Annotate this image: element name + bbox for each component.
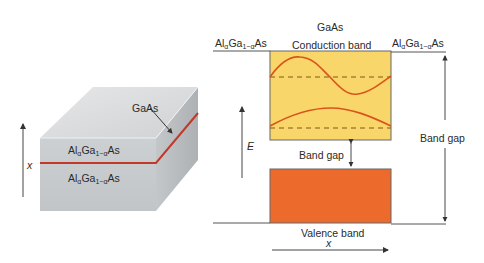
gaas-well-label: GaAs — [132, 103, 158, 114]
inner-band-gap-label: Band gap — [299, 150, 344, 161]
position-axis-label: x — [326, 238, 331, 249]
valence-band-well — [270, 169, 391, 223]
top-layer-label: AlαGa1−αAs — [68, 145, 120, 156]
left-material-label: AlαGa1−αAs — [215, 38, 267, 49]
conduction-band-label: Conduction band — [292, 40, 371, 51]
right-material-label: AlαGa1−αAs — [392, 38, 444, 49]
energy-axis-label: E — [247, 141, 254, 152]
bottom-layer-label: AlαGa1−αAs — [68, 173, 120, 184]
conduction-band-well — [270, 51, 391, 140]
outer-band-gap-label: Band gap — [420, 133, 465, 144]
valence-band-label: Valence band — [301, 228, 364, 239]
gaas-title: GaAs — [317, 22, 343, 33]
x-axis-label: x — [27, 160, 32, 171]
